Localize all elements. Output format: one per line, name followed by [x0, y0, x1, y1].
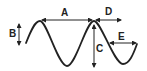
label-b: B [9, 28, 16, 39]
label-e: E [118, 31, 125, 42]
label-c: C [96, 43, 103, 54]
label-d: D [105, 6, 112, 17]
label-a: A [61, 7, 68, 18]
wave-diagram: A D B C E [0, 0, 147, 71]
